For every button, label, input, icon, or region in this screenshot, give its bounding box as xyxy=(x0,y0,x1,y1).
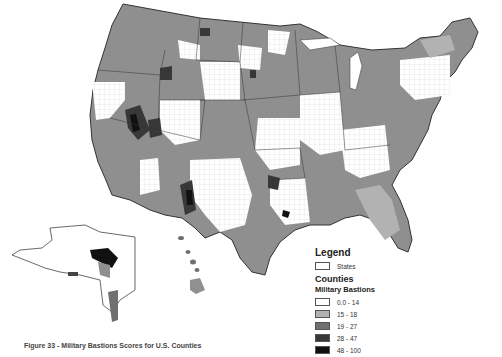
class-swatch-4 xyxy=(315,346,330,354)
class-label: 15 - 18 xyxy=(337,311,357,318)
class-label: 28 - 47 xyxy=(337,335,357,342)
states-swatch xyxy=(315,262,330,270)
legend-class-row: 15 - 18 xyxy=(315,309,435,319)
legend-class-row: 28 - 47 xyxy=(315,333,435,343)
legend-variable-label: Military Bastions xyxy=(315,285,435,294)
figure-caption: Figure 33 - Military Bastions Scores for… xyxy=(24,342,201,349)
legend-class-row: 19 - 27 xyxy=(315,321,435,331)
class-label: 19 - 27 xyxy=(337,323,357,330)
hawaii-inset xyxy=(178,236,205,294)
legend-class-row: 48 - 100 xyxy=(315,345,435,355)
states-label: States xyxy=(337,263,355,270)
legend-counties-label: Counties xyxy=(315,274,435,284)
class-label: 0.0 - 14 xyxy=(337,299,359,306)
class-swatch-2 xyxy=(315,322,330,330)
legend-states-row: States xyxy=(315,261,435,271)
class-swatch-0 xyxy=(315,298,330,306)
class-swatch-1 xyxy=(315,310,330,318)
alaska-inset xyxy=(12,225,135,322)
map-legend: Legend States Counties Military Bastions… xyxy=(315,247,435,357)
class-swatch-3 xyxy=(315,334,330,342)
legend-class-row: 0.0 - 14 xyxy=(315,297,435,307)
legend-title: Legend xyxy=(315,247,435,258)
class-label: 48 - 100 xyxy=(337,347,361,354)
